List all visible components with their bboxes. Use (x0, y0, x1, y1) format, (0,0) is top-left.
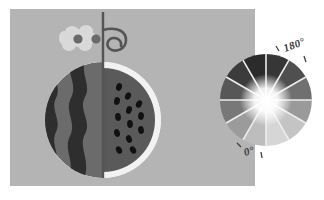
figure-root: 180° 0° (0, 0, 324, 200)
tick-180-left (276, 46, 279, 51)
tick-0-right (261, 152, 262, 158)
tick-0-left (237, 143, 241, 147)
color-wheel-stage: 180° 0° (0, 0, 324, 200)
wheel-center-highlight (240, 74, 292, 126)
angle-label-180: 180° (282, 35, 307, 54)
color-wheel[interactable] (220, 54, 312, 146)
angle-label-0: 0° (242, 143, 256, 158)
tick-180-right (304, 56, 306, 62)
